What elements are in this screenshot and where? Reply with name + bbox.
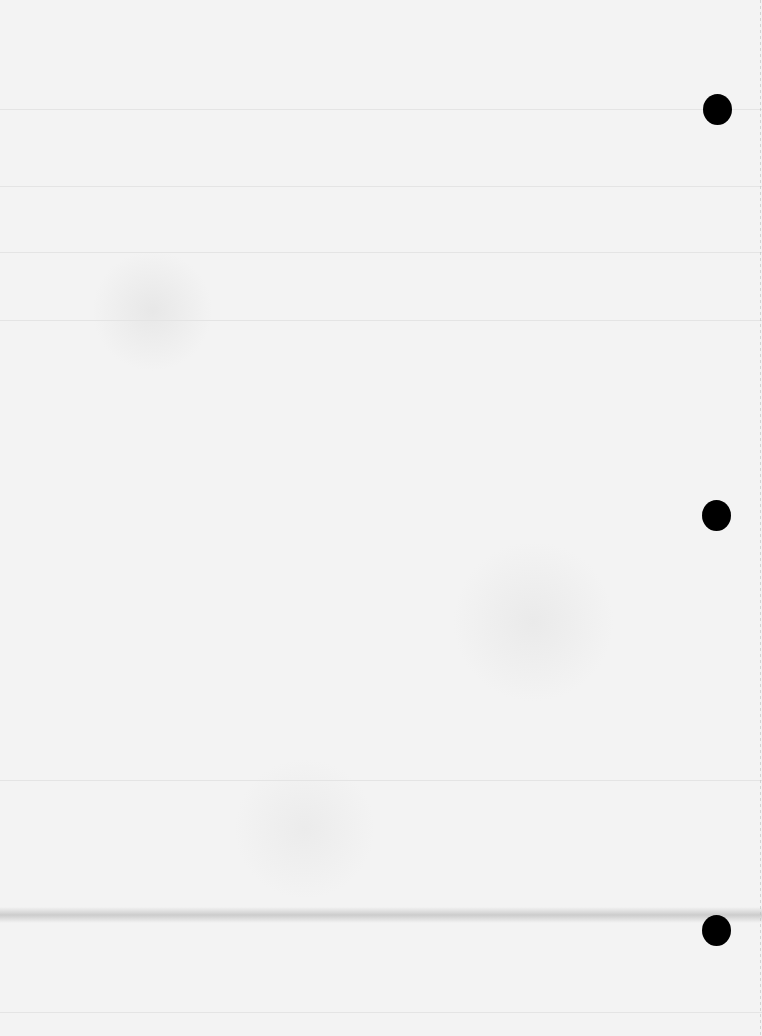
fold-line: [0, 780, 762, 781]
perforated-edge: [760, 0, 761, 1036]
fold-crease: [0, 907, 762, 923]
blank-paper-page: [0, 0, 762, 1036]
punch-hole-top: [703, 94, 732, 125]
fold-line: [0, 1012, 762, 1013]
fold-line: [0, 186, 762, 187]
fold-line: [0, 252, 762, 253]
fold-line: [0, 109, 762, 110]
punch-hole-bottom: [702, 915, 731, 946]
punch-hole-middle: [702, 500, 731, 531]
fold-line: [0, 320, 762, 321]
